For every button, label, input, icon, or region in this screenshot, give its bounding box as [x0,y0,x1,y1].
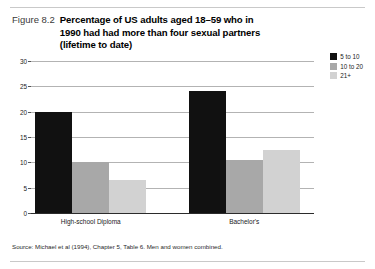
figure-title: Percentage of US adults aged 18–59 who i… [60,14,272,52]
source-note: Source: Michael et al (1994), Chapter 5,… [12,243,223,250]
bottom-divider [10,261,365,262]
legend-swatch-icon [330,63,337,70]
y-axis-tick-label: 5 [23,184,27,191]
bar [35,112,72,213]
y-axis-tick-label: 10 [20,159,27,166]
figure-number: Figure 8.2 [12,14,60,27]
legend-swatch-icon [330,72,337,79]
legend-swatch-icon [330,53,337,60]
bars-group [31,61,314,213]
bar [226,160,263,213]
x-axis-labels: High-school DiplomaBachelor's [31,218,314,230]
figure-header: Figure 8.2 Percentage of US adults aged … [12,14,272,52]
x-axis-category-label: High-school Diploma [61,218,121,225]
x-axis-category-label: Bachelor's [229,218,259,225]
y-axis-tick-label: 0 [23,210,27,217]
y-axis-tick-label: 20 [20,108,27,115]
top-divider [10,7,365,8]
bar [72,162,109,213]
legend-label: 5 to 10 [340,53,359,60]
y-axis-tick-label: 30 [20,58,27,65]
bar [109,180,146,213]
y-axis-tick-label: 25 [20,83,27,90]
bar [263,150,300,213]
legend-label: 21+ [340,72,351,79]
x-axis-line [31,213,314,214]
legend-item[interactable]: 5 to 10 [330,53,363,60]
plot-area: 051015202530 [31,61,314,214]
figure-container: Figure 8.2 Percentage of US adults aged … [0,0,375,269]
legend-item[interactable]: 21+ [330,72,363,79]
chart-legend: 5 to 1010 to 2021+ [330,53,363,79]
y-axis-tick-label: 15 [20,134,27,141]
legend-item[interactable]: 10 to 20 [330,63,363,70]
bar [189,91,226,213]
legend-label: 10 to 20 [340,63,363,70]
